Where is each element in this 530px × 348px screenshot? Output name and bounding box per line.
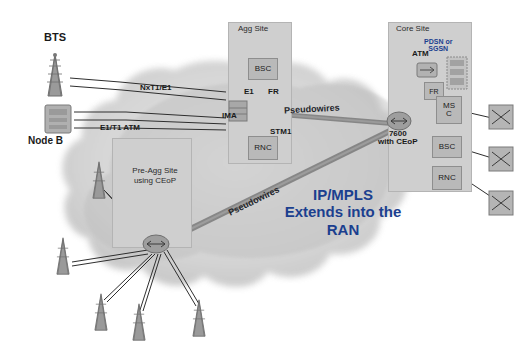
tower-icon-preagg-s (126, 302, 152, 342)
tower-icon-preagg-w (50, 236, 76, 276)
atm-switch-icon (416, 62, 438, 78)
label-fr: FR (268, 88, 279, 96)
diagram-canvas: Agg Site Core Site Pre-Agg Site using CE… (0, 0, 530, 348)
edge-switch-icon-2 (488, 146, 514, 172)
label-nodeb: Node B (28, 136, 63, 147)
label-stm1: STM1 (270, 128, 291, 136)
tower-icon-preagg-se (186, 298, 212, 338)
edge-switch-icon-3 (488, 190, 514, 216)
node-bsc-core-label: BSC (439, 143, 455, 151)
node-bsc-core[interactable]: BSC (432, 136, 462, 158)
edge-switch-icon-1 (488, 104, 514, 130)
label-ima: IMA (222, 112, 237, 120)
node-rnc-core-label: RNC (438, 174, 455, 182)
site-label-preagg: Pre-Agg Site using CEoP (120, 166, 190, 185)
node-bsc-agg-label: BSC (255, 65, 271, 73)
label-nxt1e1: NxT1/E1 (140, 84, 172, 92)
tower-icon-preagg-nw (86, 160, 112, 200)
pdsn-sgsn-rack-icon (446, 56, 468, 90)
site-label-core: Core Site (396, 24, 429, 33)
node-rnc-agg[interactable]: RNC (248, 136, 278, 160)
node-fr-core-label: FR (429, 88, 438, 95)
tower-icon-preagg-sw (88, 292, 114, 332)
tower-icon-bts (40, 52, 70, 98)
preagg-router-icon[interactable] (142, 232, 170, 256)
overlay-title: IP/MPLS Extends into the RAN (268, 186, 418, 238)
node-rnc-core[interactable]: RNC (432, 166, 462, 190)
node-msc-core-label: MS C (443, 102, 455, 118)
label-e1t1atm: E1/T1 ATM (100, 124, 140, 132)
label-pdsn-sgsn: PDSN or SGSN (424, 38, 452, 53)
node-msc-core[interactable]: MS C (436, 96, 462, 124)
site-label-preagg-text: Pre-Agg Site using CEoP (132, 166, 177, 185)
label-bts: BTS (44, 32, 66, 44)
site-label-agg: Agg Site (238, 24, 268, 33)
nodeb-icon (44, 104, 72, 134)
node-rnc-agg-label: RNC (254, 144, 271, 152)
node-bsc-agg[interactable]: BSC (248, 58, 278, 80)
label-router-7600: 7600 with CEoP (378, 130, 418, 147)
label-e1: E1 (244, 88, 254, 96)
